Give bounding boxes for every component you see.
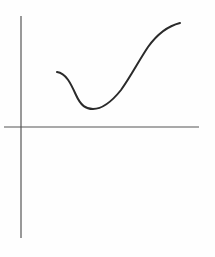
diagram-figure — [0, 0, 215, 257]
plot-canvas — [0, 0, 215, 257]
function-curve — [57, 23, 180, 109]
